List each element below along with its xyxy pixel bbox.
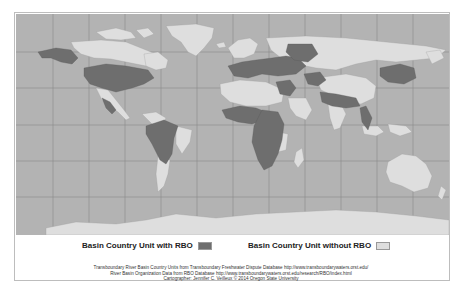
world-map bbox=[16, 14, 449, 235]
swatch-with-rbo bbox=[198, 242, 212, 250]
legend-item-with-rbo: Basin Country Unit with RBO bbox=[82, 241, 212, 250]
legend-item-without-rbo: Basin Country Unit without RBO bbox=[248, 241, 390, 250]
map-credits: Transboundary River Basin Country Units … bbox=[0, 265, 462, 282]
map-svg bbox=[16, 14, 449, 235]
land-without-rbo bbox=[46, 24, 449, 235]
legend-label-without-rbo: Basin Country Unit without RBO bbox=[248, 241, 371, 250]
credit-line-3: Cartographer: Jennifer C. Veilleux © 201… bbox=[0, 276, 462, 282]
legend: Basin Country Unit with RBO Basin Countr… bbox=[0, 241, 462, 255]
legend-label-with-rbo: Basin Country Unit with RBO bbox=[82, 241, 193, 250]
swatch-without-rbo bbox=[376, 242, 390, 250]
